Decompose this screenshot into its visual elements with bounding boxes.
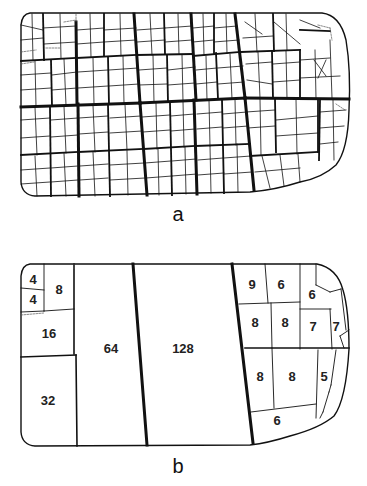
parcel-label: 6 <box>308 287 315 302</box>
parcel-label: 16 <box>42 326 56 341</box>
panel-a-block-boundaries <box>21 14 349 196</box>
panel-b-label: b <box>158 455 198 478</box>
parcel-label: 8 <box>281 315 288 330</box>
parcel-label: 5 <box>320 369 327 384</box>
panel-a-diagram <box>21 13 350 196</box>
parcel-label: 6 <box>277 277 284 292</box>
parcel-label: 8 <box>256 369 263 384</box>
panel-a-label: a <box>158 203 198 226</box>
parcel-label: 7 <box>332 319 339 334</box>
parcel-label: 128 <box>172 341 194 356</box>
parcel-label: 8 <box>55 282 62 297</box>
parcel-label: 4 <box>29 292 37 307</box>
parcel-label: 8 <box>288 369 295 384</box>
parcel-label: 8 <box>251 315 258 330</box>
figure-canvas: 4 4 8 16 32 64 128 9 6 6 8 8 7 7 8 8 5 6 <box>0 0 367 486</box>
panel-b-diagram: 4 4 8 16 32 64 128 9 6 6 8 8 7 7 8 8 5 6 <box>21 264 349 446</box>
parcel-label: 4 <box>29 272 37 287</box>
parcel-label: 7 <box>309 319 316 334</box>
parcel-label: 64 <box>104 341 119 356</box>
parcel-label: 32 <box>41 393 55 408</box>
parcel-label: 9 <box>248 277 255 292</box>
parcel-label: 6 <box>273 413 280 428</box>
